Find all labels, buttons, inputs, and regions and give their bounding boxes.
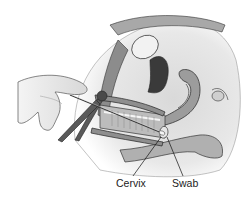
ovary bbox=[212, 91, 224, 101]
cervix-label: Cervix bbox=[116, 178, 146, 189]
cervical-swab-illustration: Cervix Swab bbox=[0, 0, 249, 204]
anatomy-drawing bbox=[0, 0, 249, 204]
swab-label: Swab bbox=[172, 178, 198, 189]
